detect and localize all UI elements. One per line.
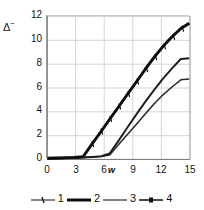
x-tick-label: 0 xyxy=(37,165,57,175)
chart-figure: Δ− 12 10 8 6 4 2 0 xyxy=(0,0,204,210)
legend-key-series-1-icon xyxy=(30,192,56,204)
x-axis-label: w xyxy=(108,166,115,175)
x-tick-label: 3 xyxy=(66,165,86,175)
legend-key-series-4-icon xyxy=(138,192,164,204)
legend-label-2: 2 xyxy=(92,193,102,204)
legend-item-4[interactable]: 4 xyxy=(138,192,174,204)
legend-label-3: 3 xyxy=(128,193,138,204)
x-axis-tick-labels: 0 3 6 9 12 15 w xyxy=(0,0,204,210)
chart-legend: 1 2 3 4 xyxy=(0,188,204,208)
x-tick-label: 15 xyxy=(180,165,200,175)
legend-key-series-3-icon xyxy=(102,192,128,204)
legend-item-1[interactable]: 1 xyxy=(30,192,66,204)
legend-item-3[interactable]: 3 xyxy=(102,192,138,204)
legend-item-2[interactable]: 2 xyxy=(66,192,102,204)
legend-label-1: 1 xyxy=(56,193,66,204)
legend-key-series-2-icon xyxy=(66,192,92,204)
x-tick-label: 12 xyxy=(151,165,171,175)
legend-label-4: 4 xyxy=(164,193,174,204)
x-tick-label: 9 xyxy=(123,165,143,175)
